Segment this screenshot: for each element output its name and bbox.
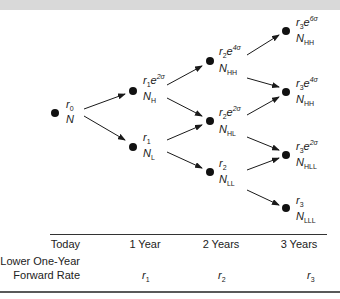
forward-rate-1: r1 <box>142 269 150 283</box>
edge-HL-HHL <box>247 97 279 115</box>
label-L-rate: r1 <box>143 131 151 145</box>
forward-rate-3: r3 <box>307 269 315 283</box>
label-LL-value: NLL <box>219 173 235 187</box>
node-L <box>129 143 137 151</box>
edge-L-HL <box>167 125 202 140</box>
label-LL-rate: r2 <box>219 157 227 171</box>
label-H-rate: r1e2σ <box>143 73 166 88</box>
node-HHH <box>282 27 290 35</box>
row-label-line2: Forward Rate <box>13 269 80 281</box>
node-HL <box>206 117 214 125</box>
tree-nodes <box>51 27 290 212</box>
edge-HL-HLL <box>247 137 279 150</box>
label-HHL-value: NHH <box>296 93 314 107</box>
label-L-value: NL <box>143 147 155 161</box>
binomial-tree: r0 N r1e2σ NH r1 NL r2e4σ NHH r2e2σ NHL … <box>0 0 340 299</box>
label-HLL-rate: r3e2σ <box>296 139 319 154</box>
node-LLL <box>282 204 290 212</box>
node-LL <box>206 168 214 176</box>
forward-rate-2: r2 <box>218 269 226 283</box>
node-HHL <box>282 88 290 96</box>
label-root-value: N <box>66 113 74 125</box>
edge-HH-HHH <box>247 35 279 55</box>
label-LLL-rate: r3 <box>296 194 304 208</box>
label-HL-rate: r2e2σ <box>219 105 242 120</box>
edge-LL-LLL <box>247 190 279 205</box>
edge-H-HH <box>167 66 202 85</box>
node-HH <box>206 57 214 65</box>
edge-root-L <box>84 116 125 140</box>
edge-root-H <box>84 94 125 109</box>
label-LLL-value: NLLL <box>296 210 316 224</box>
node-H <box>129 87 137 95</box>
node-root <box>51 109 59 117</box>
label-HHH-value: NHH <box>296 32 314 46</box>
label-HH-rate: r2e4σ <box>219 44 242 59</box>
label-HHL-rate: r3e4σ <box>296 76 319 91</box>
edge-H-HL <box>167 98 202 116</box>
edge-LL-HLL <box>247 158 279 170</box>
period-2-years: 2 Years <box>203 238 240 250</box>
label-HLL-value: NHLL <box>296 156 317 170</box>
label-root-rate: r0 <box>66 98 74 112</box>
period-today: Today <box>51 238 81 250</box>
period-3-years: 3 Years <box>281 238 318 250</box>
edge-HH-HHL <box>247 78 279 87</box>
label-HH-value: NHH <box>219 62 237 76</box>
period-1-year: 1 Year <box>129 238 161 250</box>
edge-L-LL <box>167 152 202 168</box>
label-H-value: NH <box>143 90 156 104</box>
label-HHH-rate: r3e6σ <box>296 15 319 30</box>
node-HLL <box>282 151 290 159</box>
label-HL-value: NHL <box>219 123 236 137</box>
row-label-line1: Lower One-Year <box>0 255 80 267</box>
tree-edges <box>84 35 279 205</box>
